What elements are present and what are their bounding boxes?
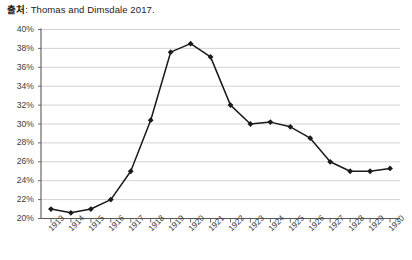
data-point-marker [367, 168, 373, 174]
data-point-marker [387, 166, 393, 172]
y-axis-tick-label: 22% [8, 194, 34, 204]
data-point-marker [88, 206, 94, 212]
y-axis-tick-label: 28% [8, 137, 34, 147]
y-axis-tick-label: 24% [8, 175, 34, 185]
data-point-marker [148, 117, 154, 123]
y-axis-tick-label: 38% [8, 43, 34, 53]
y-axis-tick-label: 20% [8, 213, 34, 223]
y-axis-tick-label: 40% [8, 24, 34, 34]
data-point-marker [68, 210, 74, 216]
y-axis-tick-label: 26% [8, 156, 34, 166]
y-axis-tick-label: 36% [8, 62, 34, 72]
y-axis-tick-label: 30% [8, 119, 34, 129]
data-point-marker [347, 168, 353, 174]
y-axis-tick-label: 34% [8, 81, 34, 91]
y-axis-tick-label: 32% [8, 100, 34, 110]
data-point-marker [287, 124, 293, 130]
data-point-marker [48, 206, 54, 212]
data-series-line [51, 44, 390, 213]
line-chart: 40%38%36%34%32%30%28%26%24%22%20%1913191… [0, 0, 412, 260]
data-point-marker [168, 49, 174, 55]
